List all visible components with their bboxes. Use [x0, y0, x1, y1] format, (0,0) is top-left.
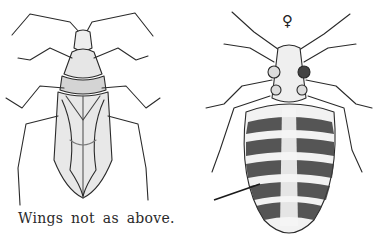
winged-bug-illustration: [0, 0, 194, 210]
winged-bug-illustration-panel: Wings not as above.: [0, 0, 194, 247]
bed-bug-illustration-panel: [194, 0, 388, 247]
bed-bug-illustration: [194, 0, 388, 247]
figure-caption: Wings not as above.: [18, 210, 175, 226]
female-symbol-icon: ♀: [282, 14, 293, 29]
